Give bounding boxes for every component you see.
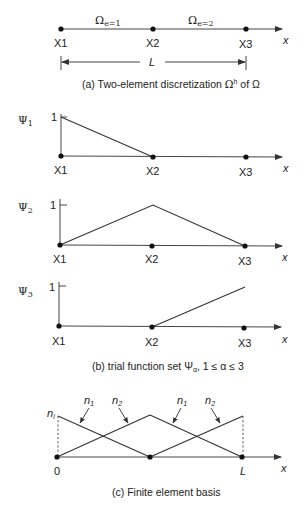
psi2-node-dot-1 <box>57 242 62 247</box>
psi2-label: Ψ2 <box>18 201 33 215</box>
psi2-node-dot-3 <box>242 243 247 248</box>
psi3-unit-label: 1 <box>49 281 55 293</box>
psi1-label: Ψ1 <box>18 114 33 128</box>
psi2-node-label-x3: X3 <box>238 255 251 267</box>
element-label-2: Ωe=2 <box>188 14 214 28</box>
psi2-node-dot-2 <box>149 243 154 248</box>
x-axis-label-c: x <box>280 462 287 474</box>
psi1-node-label-x1: X1 <box>54 164 67 176</box>
node-dot-x2 <box>150 26 155 31</box>
psi1-node-dot-1 <box>58 153 63 158</box>
panel-b-psi1-plot: Ψ1 1 X1 X2 X3 x <box>18 111 289 178</box>
finite-element-figure: Ωe=1 Ωe=2 X1 X2 X3 x L (a) Two-element d… <box>0 0 308 511</box>
panel-a-discretization: Ωe=1 Ωe=2 X1 X2 X3 x L (a) Two-element d… <box>54 14 289 90</box>
caption-a: (a) Two-element discretization Ωh of Ω <box>82 78 260 90</box>
shape-arrow-n1-a <box>80 408 89 423</box>
x-axis-label-a: x <box>282 34 289 46</box>
node-label-x2: X2 <box>146 37 159 49</box>
psi1-node-label-x2: X2 <box>146 165 159 177</box>
node-dot-0 <box>54 454 59 459</box>
shape-label-n2-b: n2 <box>205 394 215 407</box>
height-label-ni: ni <box>47 407 55 420</box>
length-label: L <box>149 56 155 68</box>
psi2-x-axis <box>60 245 282 246</box>
node-dot-l <box>239 454 244 459</box>
psi3-node-dot-2 <box>149 324 154 329</box>
shape-label-n2-a: n2 <box>112 394 122 407</box>
node-dot-mid <box>147 454 152 459</box>
psi1-node-dot-3 <box>243 154 248 159</box>
psi1-node-dot-2 <box>150 154 155 159</box>
shape-label-n1-a: n1 <box>84 394 94 407</box>
psi2-curve <box>60 205 245 246</box>
psi2-node-label-x1: X1 <box>53 253 66 265</box>
psi3-x-axis <box>59 326 281 327</box>
psi3-curve <box>152 287 245 327</box>
psi1-unit-label: 1 <box>51 111 57 123</box>
psi1-node-label-x3: X3 <box>239 166 252 178</box>
psi1-curve <box>61 117 153 157</box>
shape-label-n1-b: n1 <box>177 394 187 407</box>
psi3-node-label-x3: X3 <box>238 337 251 349</box>
psi1-x-axis <box>61 156 282 157</box>
psi3-node-label-x1: X1 <box>52 335 65 347</box>
node-label-x1: X1 <box>54 37 67 49</box>
node-dot-x3 <box>243 26 248 31</box>
end-label-l: L <box>240 465 246 477</box>
panel-b-psi2-plot: Ψ2 1 X1 X2 X3 x <box>18 199 288 267</box>
element-label-1: Ωe=1 <box>95 14 121 28</box>
shape-arrow-n2-b <box>211 408 220 423</box>
psi3-node-label-x2: X2 <box>145 336 158 348</box>
psi1-x-axis-label: x <box>282 162 289 174</box>
start-label-0: 0 <box>54 465 60 477</box>
node-dot-x1 <box>58 26 63 31</box>
psi2-node-label-x2: X2 <box>145 253 158 265</box>
shape-arrow-n2-a <box>119 408 128 423</box>
psi3-label: Ψ3 <box>18 285 33 299</box>
psi3-x-axis-label: x <box>281 333 288 345</box>
psi2-x-axis-label: x <box>281 251 288 263</box>
caption-c: (c) Finite element basis <box>112 486 221 498</box>
panel-c-finite-element-basis: ni n1 n2 n1 n2 0 L x (c) Finite element … <box>47 394 287 498</box>
caption-b: (b) trial function set Ψα, 1 ≤ α ≤ 3 <box>92 360 244 373</box>
psi2-unit-label: 1 <box>50 199 56 211</box>
psi3-node-dot-3 <box>241 325 246 330</box>
shape-arrow-n1-b <box>173 408 181 423</box>
psi3-node-dot-1 <box>56 323 61 328</box>
panel-b-psi3-plot: Ψ3 1 X1 X2 X3 x (b) trial function set Ψ… <box>18 281 288 373</box>
node-label-x3: X3 <box>239 38 252 50</box>
